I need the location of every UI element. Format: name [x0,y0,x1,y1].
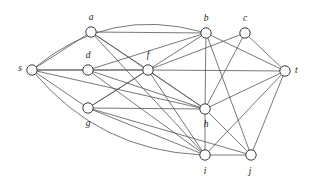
node-layer: sabcdftghij [18,12,298,176]
graph-edge [153,70,280,71]
graph-node-label-j: j [247,166,252,176]
graph-edge [152,36,201,67]
graph-node-label-f: f [147,50,151,60]
graph-canvas: sabcdftghij [0,0,310,187]
graph-node-label-h: h [204,119,209,129]
graph-node-b[interactable] [201,28,211,38]
graph-node-g[interactable] [83,103,93,113]
graph-edge [92,73,143,105]
graph-node-i[interactable] [200,150,210,160]
graph-edge [93,109,246,153]
graph-node-j[interactable] [246,150,256,160]
graph-node-label-b: b [204,13,209,23]
graph-node-t[interactable] [280,66,290,76]
graph-node-label-d: d [86,50,91,60]
graph-node-d[interactable] [83,65,93,75]
graph-edge [153,35,240,68]
graph-node-label-s: s [18,63,22,73]
graph-node-a[interactable] [86,27,96,37]
graph-edge [211,35,281,68]
graph-node-h[interactable] [200,104,210,114]
graph-node-label-g: g [86,118,91,128]
graph-node-label-i: i [204,166,207,176]
graph-node-label-t: t [295,65,298,75]
graph-edge [36,73,83,105]
graph-node-f[interactable] [143,65,153,75]
graph-edge [253,76,283,150]
graph-edge [92,73,201,152]
graph-node-label-c: c [243,13,248,23]
graph-edge [93,72,200,108]
graph-edge [36,35,86,67]
graph-node-c[interactable] [240,28,250,38]
graph-edge [93,108,200,109]
graph-node-label-a: a [89,12,94,22]
graph-edge [96,32,201,33]
graph-figure: sabcdftghij [0,0,310,187]
graph-edge [208,38,249,150]
graph-node-s[interactable] [27,65,37,75]
graph-edge [249,37,281,68]
graph-edge [210,73,281,107]
edge-layer [35,24,283,155]
graph-edge [151,74,202,150]
graph-edge [152,73,200,106]
